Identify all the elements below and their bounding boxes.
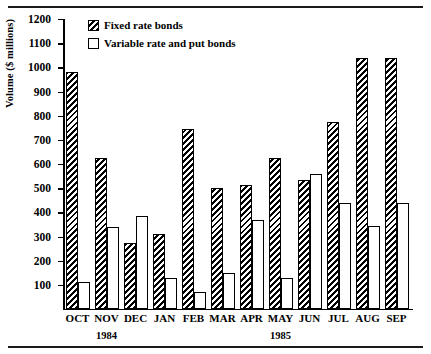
legend-label: Fixed rate bonds (104, 19, 183, 32)
bar-group (152, 19, 181, 309)
y-axis-tick-label: 400 (34, 204, 51, 220)
bar-fixed-rate-bonds (66, 72, 78, 309)
bar-group (210, 19, 239, 309)
chart-legend: Fixed rate bondsVariable rate and put bo… (88, 17, 236, 53)
y-axis-tick-label: 600 (34, 156, 51, 172)
bar-fixed-rate-bonds (211, 188, 223, 309)
bar-variable-rate-and-put-bonds (368, 226, 380, 309)
y-axis-tick-label: 800 (34, 108, 51, 124)
y-axis-tick: 300 (58, 237, 63, 238)
bar-fixed-rate-bonds (182, 129, 194, 309)
bar-group (65, 19, 94, 309)
bar-fixed-rate-bonds (327, 122, 339, 309)
y-axis-tick-label: 700 (34, 132, 51, 148)
x-axis-tick-label: SEP (382, 312, 411, 324)
y-axis-tick-label: 1000 (28, 59, 51, 75)
y-axis-tick: 500 (58, 188, 63, 189)
y-axis-tick-label: 100 (34, 277, 51, 293)
bar-variable-rate-and-put-bonds (78, 282, 90, 309)
x-axis-year-label: 1984 (92, 330, 121, 341)
bar-group (326, 19, 355, 309)
x-axis-tick-label: JUL (324, 312, 353, 324)
x-axis-tick-label: DEC (121, 312, 150, 324)
bar-group (355, 19, 384, 309)
bar-fixed-rate-bonds (385, 58, 397, 309)
bar-chart-figure: Volume ($ millions) 12001100100090080070… (0, 0, 431, 354)
y-axis-tick-label: 1100 (29, 35, 51, 51)
plot-area: 120011001000900800700600500400300200100 … (63, 19, 413, 310)
bar-variable-rate-and-put-bonds (397, 203, 409, 309)
y-axis-tick: 800 (58, 116, 63, 117)
y-axis-title: Volume ($ millions) (4, 19, 15, 108)
y-axis-tick: 400 (58, 212, 63, 213)
legend-label: Variable rate and put bonds (104, 37, 236, 50)
y-axis-tick: 200 (58, 261, 63, 262)
x-axis-tick-label: MAY (266, 312, 295, 324)
x-axis-tick-label: MAR (208, 312, 237, 324)
x-axis-tick-label: AUG (353, 312, 382, 324)
y-axis-tick: 1100 (58, 43, 63, 44)
bar-series-container (65, 19, 413, 309)
y-axis-tick-label: 1200 (28, 11, 51, 27)
legend-swatch-hatch-icon (88, 20, 99, 31)
x-axis-tick-label: OCT (63, 312, 92, 324)
y-axis-tick-label: 500 (34, 180, 51, 196)
bar-variable-rate-and-put-bonds (252, 220, 264, 309)
bar-variable-rate-and-put-bonds (136, 216, 148, 309)
y-axis-tick-label: 900 (34, 84, 51, 100)
bar-variable-rate-and-put-bonds (310, 174, 322, 309)
bar-variable-rate-and-put-bonds (165, 278, 177, 309)
x-axis-tick-label: JUN (295, 312, 324, 324)
bar-fixed-rate-bonds (240, 185, 252, 309)
legend-entry: Fixed rate bonds (88, 17, 236, 33)
y-axis-tick: 1000 (58, 67, 63, 68)
x-axis-tick-label: FEB (179, 312, 208, 324)
y-axis-tick: 900 (58, 92, 63, 93)
bar-group (297, 19, 326, 309)
bar-variable-rate-and-put-bonds (223, 273, 235, 309)
bar-fixed-rate-bonds (269, 158, 281, 309)
bar-variable-rate-and-put-bonds (107, 227, 119, 309)
bar-fixed-rate-bonds (153, 234, 165, 309)
bar-variable-rate-and-put-bonds (194, 292, 206, 309)
top-divider-rule (8, 6, 423, 8)
y-axis-tick: 700 (58, 140, 63, 141)
bar-fixed-rate-bonds (95, 158, 107, 309)
y-axis-tick: 1200 (58, 19, 63, 20)
bar-group (94, 19, 123, 309)
bar-variable-rate-and-put-bonds (339, 203, 351, 309)
bottom-divider-rule (8, 346, 423, 348)
bar-variable-rate-and-put-bonds (281, 278, 293, 309)
x-axis-tick-label: APR (237, 312, 266, 324)
bar-group (239, 19, 268, 309)
y-axis-tick-label: 300 (34, 229, 51, 245)
legend-swatch-plain-icon (88, 38, 99, 49)
y-axis-tick: 600 (58, 164, 63, 165)
x-axis-tick-label: JAN (150, 312, 179, 324)
bar-group (123, 19, 152, 309)
bar-fixed-rate-bonds (298, 180, 310, 309)
legend-entry: Variable rate and put bonds (88, 35, 236, 51)
bar-fixed-rate-bonds (124, 243, 136, 309)
x-axis-year-label: 1985 (266, 330, 295, 341)
bar-group (181, 19, 210, 309)
bar-group (384, 19, 413, 309)
bar-group (268, 19, 297, 309)
x-axis-tick-label: NOV (92, 312, 121, 324)
bar-fixed-rate-bonds (356, 58, 368, 309)
y-axis-tick-label: 200 (34, 253, 51, 269)
y-axis-tick: 100 (58, 285, 63, 286)
